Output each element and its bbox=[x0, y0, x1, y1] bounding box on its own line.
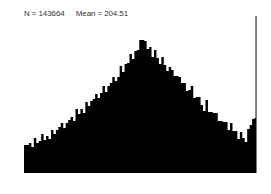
histogram-chart bbox=[0, 0, 271, 194]
histogram-bars bbox=[24, 16, 257, 173]
